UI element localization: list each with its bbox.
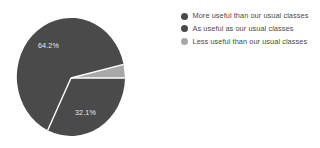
pie-chart-figure: 64.2% 32.1% More useful than our usual c… — [0, 0, 320, 148]
pie-slice-label-as-useful: 32.1% — [75, 108, 96, 117]
legend-item-as-useful: As useful as our usual classes — [181, 23, 320, 35]
legend-item-less-useful: Less useful than our usual classes — [181, 36, 320, 48]
legend-item-label: As useful as our usual classes — [193, 25, 294, 33]
legend-swatch-icon — [181, 13, 188, 20]
chart-legend: More useful than our usual classes As us… — [181, 10, 320, 48]
legend-swatch-icon — [181, 25, 188, 32]
legend-item-label: Less useful than our usual classes — [193, 38, 308, 46]
legend-item-label: More useful than our usual classes — [193, 12, 309, 20]
pie-slice-label-more-useful: 64.2% — [38, 41, 59, 50]
pie-chart-svg: 64.2% 32.1% — [0, 0, 160, 148]
pie-chart-plot-area: 64.2% 32.1% — [0, 0, 160, 148]
legend-item-more-useful: More useful than our usual classes — [181, 10, 320, 22]
legend-swatch-icon — [181, 38, 188, 45]
